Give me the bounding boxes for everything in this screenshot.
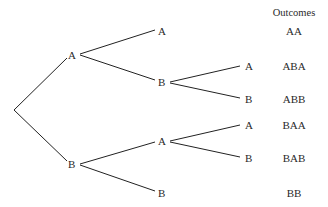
node-AB: B [158,76,165,88]
edge-AB-ABA [170,66,240,82]
node-AA: A [158,25,166,37]
outcome-BB: BB [287,187,302,199]
node-BAA: A [245,119,253,131]
edge-A-AA [80,30,155,54]
node-BB: B [158,187,165,199]
node-B: B [68,158,75,170]
tree-node-labels: A B A B A B A B A B [68,25,253,199]
edge-BA-BAB [170,142,240,157]
node-BA: A [158,135,166,147]
node-ABB: B [245,93,252,105]
edge-B-BB [80,165,155,191]
edge-A-AB [80,55,155,80]
edge-B-BA [80,142,155,164]
edge-root-A [14,58,67,110]
outcome-BAB: BAB [283,152,306,164]
tree-edges [14,30,240,191]
outcome-AA: AA [286,25,302,37]
outcome-BAA: BAA [282,119,305,131]
edge-BA-BAA [170,125,240,141]
outcome-ABB: ABB [283,93,306,105]
outcomes-header: Outcomes [273,7,316,18]
edge-AB-ABB [170,83,240,98]
edge-root-B [14,110,67,161]
node-A: A [68,49,76,61]
outcomes-column: Outcomes AA ABA ABB BAA BAB BB [273,7,316,199]
tree-diagram: A B A B A B A B A B Outcomes AA ABA ABB … [0,0,328,207]
node-ABA: A [245,60,253,72]
outcome-ABA: ABA [282,60,305,72]
node-BAB: B [245,152,252,164]
